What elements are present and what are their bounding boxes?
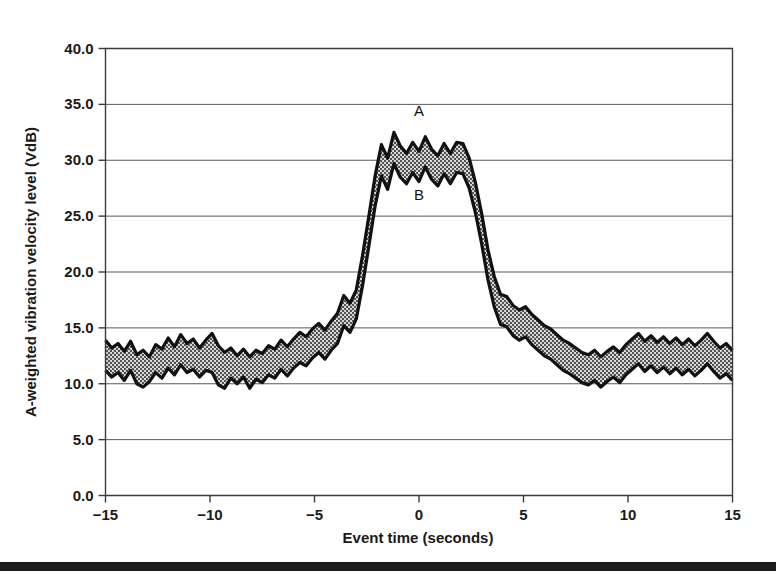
x-tick-label: −10	[197, 506, 222, 523]
x-tick-label: 15	[724, 506, 741, 523]
y-tick-label: 35.0	[64, 95, 93, 112]
page-bottom-rule	[0, 562, 776, 571]
x-tick-label: 10	[620, 506, 637, 523]
vibration-level-chart: 0.05.010.015.020.025.030.035.040.0 −15−1…	[0, 0, 776, 578]
series-label-a: A	[414, 102, 424, 119]
x-tick-label: −5	[306, 506, 323, 523]
y-tick-label: 15.0	[64, 319, 93, 336]
x-tick-label: 0	[415, 506, 423, 523]
y-tick-label: 10.0	[64, 375, 93, 392]
y-tick-label: 5.0	[73, 431, 94, 448]
x-axis-title: Event time (seconds)	[343, 529, 494, 546]
canvas-background	[0, 0, 776, 578]
y-tick-label: 0.0	[73, 487, 94, 504]
y-tick-label: 40.0	[64, 40, 93, 57]
x-tick-label: 5	[519, 506, 527, 523]
y-axis-title: A-weighted vibration velocity level (VdB…	[22, 127, 39, 417]
figure-container: 0.05.010.015.020.025.030.035.040.0 −15−1…	[0, 0, 776, 578]
x-tick-label: −15	[93, 506, 118, 523]
y-tick-label: 30.0	[64, 151, 93, 168]
series-label-b: B	[414, 186, 424, 203]
y-tick-label: 20.0	[64, 263, 93, 280]
y-tick-label: 25.0	[64, 207, 93, 224]
